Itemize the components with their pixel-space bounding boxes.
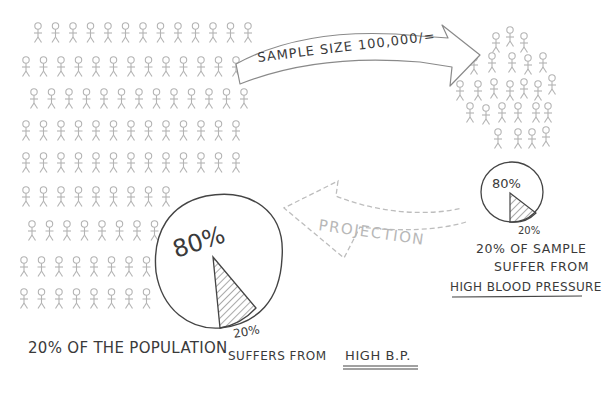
stick-figure-icon — [508, 53, 516, 73]
stick-figure-icon — [22, 153, 30, 173]
stick-figure-icon — [122, 23, 130, 43]
stick-figure-icon — [520, 33, 528, 53]
stick-figure-icon — [127, 121, 135, 141]
stick-figure-icon — [514, 103, 522, 123]
stick-figure-icon — [162, 187, 170, 207]
stick-figure-icon — [215, 57, 223, 77]
stick-figure-icon — [223, 89, 231, 109]
stick-figure-icon — [506, 81, 514, 101]
stick-figure-icon — [40, 57, 48, 77]
stick-figure-icon — [162, 153, 170, 173]
stick-figure-icon — [30, 89, 38, 109]
diagram-canvas: SAMPLE SIZE 100,000/= PROJECTION 80% 20%… — [0, 0, 604, 393]
sample-caption: 20% OF SAMPLE SUFFER FROM HIGH BLOOD PRE… — [450, 241, 602, 297]
stick-figure-icon — [456, 81, 464, 101]
sample-size-arrow: SAMPLE SIZE 100,000/= — [236, 25, 480, 86]
stick-figure-icon — [539, 53, 547, 73]
stick-figure-icon — [192, 23, 200, 43]
stick-figure-icon — [232, 153, 240, 173]
stick-figure-icon — [108, 289, 116, 309]
stick-figure-icon — [38, 257, 46, 277]
population-pie-chart: 80% 20% — [155, 194, 282, 341]
stick-figure-icon — [110, 187, 118, 207]
stick-figure-icon — [197, 57, 205, 77]
stick-figure-icon — [135, 89, 143, 109]
stick-figure-icon — [28, 221, 36, 241]
stick-figure-icon — [100, 89, 108, 109]
stick-figure-icon — [197, 153, 205, 173]
projection-label: PROJECTION — [317, 216, 426, 249]
stick-figure-icon — [514, 129, 522, 149]
stick-figure-icon — [55, 289, 63, 309]
stick-figure-icon — [92, 121, 100, 141]
stick-figure-icon — [506, 27, 514, 47]
stick-figure-icon — [174, 23, 182, 43]
stick-figure-icon — [127, 187, 135, 207]
stick-figure-icon — [180, 121, 188, 141]
stick-figure-icon — [188, 89, 196, 109]
stick-figure-icon — [524, 55, 532, 75]
stick-figure-icon — [110, 121, 118, 141]
population-caption-part2: SUFFERS FROM — [228, 349, 327, 363]
stick-figure-icon — [108, 257, 116, 277]
stick-figure-icon — [20, 289, 28, 309]
stick-figure-icon — [34, 23, 42, 43]
stick-figure-icon — [488, 53, 496, 73]
stick-figure-icon — [170, 89, 178, 109]
stick-figure-icon — [57, 153, 65, 173]
stick-figure-icon — [75, 187, 83, 207]
stick-figure-icon — [57, 57, 65, 77]
stick-figure-icon — [116, 221, 124, 241]
sample-caption-line2: SUFFER FROM — [494, 259, 589, 274]
stick-figure-icon — [92, 187, 100, 207]
stick-figure-icon — [145, 121, 153, 141]
stick-figure-icon — [40, 121, 48, 141]
stick-figure-icon — [73, 257, 81, 277]
stick-figure-icon — [22, 187, 30, 207]
stick-figure-icon — [83, 89, 91, 109]
population-caption-emphasis: HIGH B.P. — [345, 348, 411, 363]
stick-figure-icon — [490, 79, 498, 99]
stick-figure-icon — [110, 57, 118, 77]
stick-figure-icon — [215, 153, 223, 173]
stick-figure-icon — [73, 289, 81, 309]
stick-figure-icon — [104, 23, 112, 43]
stick-figure-icon — [127, 153, 135, 173]
stick-figure-icon — [40, 153, 48, 173]
stick-figure-icon — [87, 23, 95, 43]
stick-figure-icon — [180, 153, 188, 173]
stick-figure-icon — [65, 89, 73, 109]
stick-figure-icon — [75, 153, 83, 173]
sample-caption-line3: HIGH BLOOD PRESSURE — [450, 280, 602, 294]
stick-figure-icon — [127, 57, 135, 77]
stick-figure-icon — [151, 221, 159, 241]
sample-pie-chart: 80% 20% — [481, 162, 543, 236]
stick-figure-icon — [38, 289, 46, 309]
stick-figure-icon — [157, 23, 165, 43]
stick-figure-icon — [145, 57, 153, 77]
stick-figure-icon — [494, 129, 502, 149]
stick-figure-icon — [145, 153, 153, 173]
stick-figure-icon — [125, 289, 133, 309]
stick-figure-icon — [22, 121, 30, 141]
stick-figure-icon — [532, 103, 540, 123]
stick-figure-icon — [528, 129, 536, 149]
stick-figure-icon — [482, 105, 490, 125]
stick-figure-icon — [498, 103, 506, 123]
stick-figure-icon — [227, 23, 235, 43]
stick-figure-icon — [69, 23, 77, 43]
stick-figure-icon — [63, 221, 71, 241]
stick-figure-icon — [534, 81, 542, 101]
stick-figure-icon — [118, 89, 126, 109]
stick-figure-icon — [542, 127, 550, 147]
stick-figure-icon — [153, 89, 161, 109]
stick-figure-icon — [57, 187, 65, 207]
stick-figure-icon — [75, 57, 83, 77]
stick-figure-icon — [92, 57, 100, 77]
stick-figure-icon — [20, 257, 28, 277]
stick-figure-icon — [90, 257, 98, 277]
stick-figure-icon — [139, 23, 147, 43]
stick-figure-icon — [75, 121, 83, 141]
stick-figure-icon — [57, 121, 65, 141]
stick-figure-icon — [40, 187, 48, 207]
